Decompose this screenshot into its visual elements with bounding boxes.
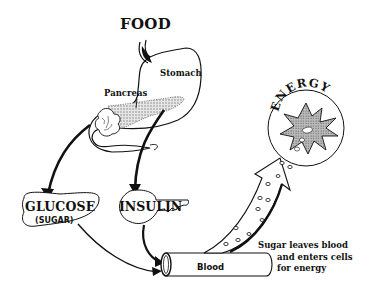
annotation-line-3: for energy — [258, 263, 353, 275]
sugar-sublabel: (SUGAR) — [35, 217, 74, 225]
esophagus-arrow — [139, 40, 152, 63]
stomach-label: Stomach — [160, 69, 202, 78]
annotation-line-1: Sugar leaves blood — [258, 240, 353, 252]
energy-arrow — [204, 158, 292, 253]
sugar-leaves-blood-annotation: Sugar leaves blood and enters cells for … — [258, 240, 353, 275]
stomach-to-glucose-arrow — [41, 125, 90, 199]
blood-label: Blood — [197, 263, 224, 272]
pancreas-shape — [108, 97, 184, 128]
glucose-label: GLUCOSE — [25, 201, 95, 214]
insulin-to-blood-arrow — [143, 225, 160, 262]
energy-circle — [268, 90, 344, 166]
food-label: FOOD — [120, 17, 171, 32]
pancreas-label: Pancreas — [104, 89, 147, 98]
annotation-line-2: and enters cells — [258, 252, 353, 264]
insulin-label: INSULIN — [119, 201, 182, 214]
